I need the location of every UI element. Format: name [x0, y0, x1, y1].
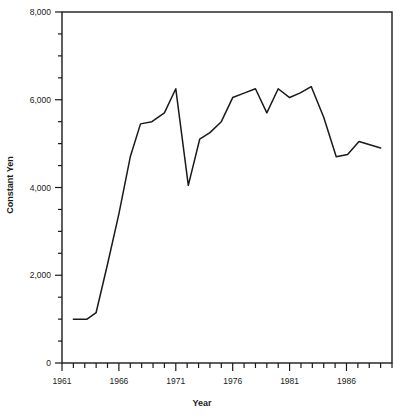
- chart-container: 02,0004,0006,0008,000 196119661971197619…: [0, 0, 404, 420]
- y-axis-title-container: Constant Yen: [2, 130, 18, 240]
- x-axis-tick-label: 1981: [280, 376, 299, 386]
- x-axis-tick-label: 1986: [337, 376, 356, 386]
- plot-frame: [62, 12, 392, 363]
- y-axis-tick-label: 4,000: [30, 183, 52, 193]
- x-axis-tick-label: 1971: [166, 376, 185, 386]
- x-axis-tick-label: 1961: [53, 376, 72, 386]
- y-axis-tick-label: 0: [46, 358, 51, 368]
- x-axis-tick-label: 1976: [223, 376, 242, 386]
- plot-area-border: [62, 12, 392, 363]
- x-axis-ticks: 196119661971197619811986: [53, 363, 392, 386]
- y-axis-tick-label: 8,000: [30, 7, 52, 17]
- y-axis-ticks: 02,0004,0006,0008,000: [30, 7, 62, 368]
- y-axis-tick-label: 6,000: [30, 95, 52, 105]
- x-axis-tick-label: 1966: [109, 376, 128, 386]
- y-axis-title: Constant Yen: [5, 156, 15, 213]
- y-axis-tick-label: 2,000: [30, 270, 52, 280]
- x-axis-title: Year: [0, 398, 404, 408]
- line-chart: 02,0004,0006,0008,000 196119661971197619…: [0, 0, 404, 420]
